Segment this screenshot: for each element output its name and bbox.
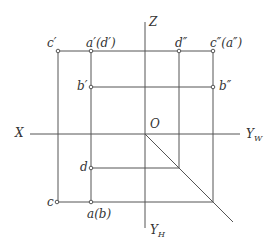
point-a-b xyxy=(89,200,93,204)
label-d-double-prime: d″ xyxy=(175,37,187,49)
yh-axis-subscript: H xyxy=(158,230,165,239)
x-axis-label: X xyxy=(15,127,24,139)
label-c: c xyxy=(47,196,54,208)
label-a-prime-d-prime: a′(d′) xyxy=(86,37,116,49)
yh-axis-label: YH xyxy=(150,224,165,239)
yw-axis-label: YW xyxy=(246,128,262,143)
origin-label: O xyxy=(150,118,160,130)
orthographic-projection-diagram: X Z O YW YH c′ a′(d′) b′ d″ c″(a″) b″ d … xyxy=(0,0,277,246)
label-d: d xyxy=(80,161,88,173)
yw-axis-letter: Y xyxy=(246,127,254,141)
yw-axis-subscript: W xyxy=(254,134,262,143)
point-d xyxy=(89,166,93,170)
point-c-prime xyxy=(56,49,60,53)
label-c-prime: c′ xyxy=(47,37,56,49)
label-a-b: a(b) xyxy=(87,208,111,220)
diagonal-45-line xyxy=(145,134,233,222)
label-c-double-prime-a-double-prime: c″(a″) xyxy=(210,37,242,49)
z-axis-label: Z xyxy=(149,16,157,28)
point-b-prime xyxy=(89,85,93,89)
label-b-prime: b′ xyxy=(77,80,87,92)
point-c xyxy=(55,200,59,204)
yh-axis-letter: Y xyxy=(150,223,158,237)
label-b-double-prime: b″ xyxy=(219,80,231,92)
point-b-double-prime xyxy=(211,85,215,89)
